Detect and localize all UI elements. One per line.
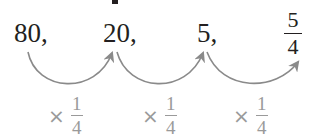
multiply-icon: × [142, 104, 159, 128]
fraction-denominator: 4 [257, 118, 267, 136]
arrow-arc-1 [28, 52, 112, 84]
operation-label-2: × 1 4 [142, 94, 177, 136]
operation-fraction: 1 4 [165, 94, 177, 136]
fraction-numerator: 1 [166, 94, 176, 113]
arrow-arc-2 [117, 52, 203, 84]
fraction-bar [165, 115, 177, 116]
arrow-arc-3 [207, 52, 298, 83]
operation-label-3: × 1 4 [233, 94, 268, 136]
fraction-denominator: 4 [72, 118, 82, 136]
fraction-numerator: 1 [72, 94, 82, 113]
fraction-numerator: 1 [257, 94, 267, 113]
fraction-denominator: 4 [166, 118, 176, 136]
operation-fraction: 1 4 [71, 94, 83, 136]
fraction-bar [256, 115, 268, 116]
fraction-bar [71, 115, 83, 116]
operation-fraction: 1 4 [256, 94, 268, 136]
operation-label-1: × 1 4 [48, 94, 83, 136]
multiply-icon: × [48, 104, 65, 128]
multiply-icon: × [233, 104, 250, 128]
